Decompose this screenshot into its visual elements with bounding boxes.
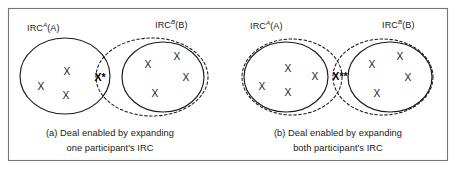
panel-b-point-mark: X — [259, 81, 266, 92]
panel-a-point-mark: X — [174, 51, 181, 62]
panel-b-point-mark: X — [374, 88, 381, 99]
figure-container: IRCA(A) IRCB(B) X X X X X X X X* (a) Dea… — [0, 0, 459, 171]
panel-a-point-mark: X — [64, 66, 71, 77]
panel-b-point-mark: X — [397, 51, 404, 62]
panel-b-point-mark: X — [312, 71, 319, 82]
panel-a-set-a-label: IRCA(A) — [27, 21, 60, 33]
panel-b-set-a-label-base: IRC — [250, 21, 266, 31]
panel-a-point-mark: X — [152, 88, 159, 99]
panel-b-point-mark: X — [405, 72, 412, 83]
panel-b-deal-point-label: X** — [332, 70, 348, 82]
panel-a-caption-line-1: (a) Deal enabled by expanding — [46, 128, 174, 138]
panel-b-point-mark: X — [369, 59, 376, 70]
panel-a-set-b-label-base: IRC — [155, 20, 171, 30]
panel-b-expanded-set-a-dashed-ellipse — [242, 39, 342, 115]
panel-b-point-mark: X — [285, 87, 292, 98]
panel-b-caption-line-1: (b) Deal enabled by expanding — [274, 128, 402, 138]
panel-b-point-mark: X — [285, 63, 292, 74]
panel-b-set-a-label: IRCA(A) — [250, 19, 283, 31]
panel-a-point-mark: X — [183, 72, 190, 83]
panel-a-caption-line-2: one participant's IRC — [66, 143, 153, 153]
panel-a-set-a-label-argument: (A) — [47, 23, 59, 33]
panel-a-set-b-solid-ellipse — [122, 42, 204, 112]
panel-a-expanded-set-b-dashed-ellipse — [96, 38, 208, 116]
panel-b-set-b-label: IRCB(B) — [382, 18, 415, 30]
panel-a-point-mark: X — [38, 81, 45, 92]
panel-b-set-b-label-base: IRC — [382, 20, 398, 30]
figure-canvas: IRCA(A) IRCB(B) X X X X X X X X* (a) Dea… — [0, 0, 459, 171]
panel-b-set-b-label-argument: (B) — [402, 20, 414, 30]
panel-a-point-mark: X — [63, 90, 70, 101]
panel-a-point-mark: X — [145, 59, 152, 70]
panel-a-set-b-label: IRCB(B) — [155, 18, 188, 30]
panel-b-set-a-label-argument: (A) — [270, 21, 282, 31]
panel-a-deal-point-label: X* — [94, 71, 106, 83]
panel-a: IRCA(A) IRCB(B) X X X X X X X X* (a) Dea… — [20, 18, 208, 153]
panel-b: IRCA(A) IRCB(B) X X X X X X X X X** (b) … — [242, 18, 433, 153]
panel-b-caption-line-2: both participant's IRC — [293, 143, 383, 153]
panel-a-set-b-label-argument: (B) — [175, 20, 187, 30]
panel-a-set-a-label-base: IRC — [27, 23, 43, 33]
panel-b-set-b-solid-ellipse — [348, 42, 432, 112]
